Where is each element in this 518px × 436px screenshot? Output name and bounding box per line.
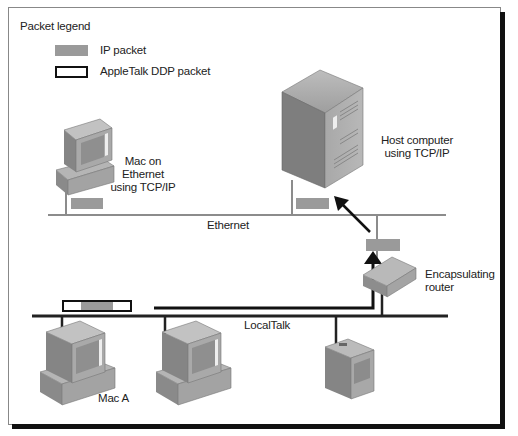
network-diagram	[0, 0, 518, 436]
host-computer-label: Host computer using TCP/IP	[370, 134, 464, 160]
mac-a-label: Mac A	[98, 392, 129, 405]
router-label: Encapsulating router	[425, 268, 495, 294]
ethernet-label: Ethernet	[207, 219, 249, 232]
host-computer-icon	[282, 70, 363, 188]
packet-path-arrow-icon	[154, 251, 382, 308]
mac-ethernet-computer-icon	[56, 119, 114, 195]
ip-packet-host	[296, 198, 329, 209]
ddp-packet-localtalk	[63, 301, 131, 311]
ip-packet-mac-ethernet	[71, 198, 103, 209]
mac-ethernet-label: Mac on Ethernet using TCP/IP	[108, 155, 178, 194]
compact-mac-icon	[325, 339, 374, 399]
legend-ddp-label: AppleTalk DDP packet	[100, 65, 210, 78]
localtalk-mac-computer-icon	[156, 321, 231, 405]
legend-title: Packet legend	[20, 20, 90, 33]
localtalk-label: LocalTalk	[244, 319, 290, 332]
legend-ip-label: IP packet	[100, 44, 146, 57]
legend-ddp-swatch	[56, 67, 87, 77]
legend-ip-swatch	[55, 45, 88, 56]
ip-packet-router	[366, 239, 400, 251]
